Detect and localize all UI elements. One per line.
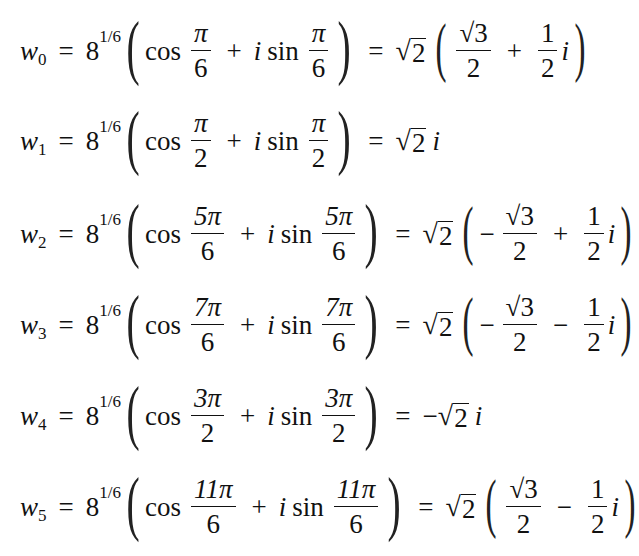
frac-den: 6 (312, 51, 326, 82)
equation-w2: w2 = 81/6 ( cos 5π6 + i sin 5π6 ) = √2 (… (20, 194, 637, 274)
angle-fraction: 3π2 (191, 385, 224, 447)
angle-fraction: π2 (309, 110, 329, 172)
one-over-2: 12 (588, 476, 608, 538)
angle-fraction: 3π2 (322, 385, 355, 447)
cos-fn: cos (145, 401, 181, 432)
subscript: 2 (38, 233, 47, 253)
equals-sign: = (368, 36, 383, 67)
exponent: 1/6 (99, 210, 121, 230)
exponent: 1/6 (99, 301, 121, 321)
base: 8 (86, 126, 100, 157)
right-paren: ) (338, 101, 351, 173)
variable-w: w (20, 401, 38, 432)
angle-fraction: π6 (191, 20, 211, 82)
right-paren: ) (338, 11, 351, 83)
imag-unit: i (608, 310, 616, 341)
exponent: 1/6 (99, 392, 121, 412)
sin-fn: sin (281, 401, 313, 432)
equation-w3: w3 = 81/6 ( cos 7π6 + i sin 7π6 ) = √2 (… (20, 285, 637, 365)
imag-unit: i (254, 126, 262, 157)
sin-fn: sin (267, 126, 299, 157)
variable-w: w (20, 219, 38, 250)
equals-sign: = (59, 126, 74, 157)
left-paren: ( (126, 101, 139, 173)
variable-w: w (20, 36, 38, 67)
sqrt-2: √2 (396, 125, 427, 157)
exponent: 1/6 (99, 483, 121, 503)
left-paren: ( (126, 11, 139, 83)
right-paren: ) (365, 285, 378, 357)
left-paren: ( (436, 14, 447, 80)
equals-sign: = (395, 310, 410, 341)
equation-w5: w5 = 81/6 ( cos 11π6 + i sin 11π6 ) = √2… (20, 467, 639, 547)
equals-sign: = (59, 36, 74, 67)
imag-unit: i (279, 492, 287, 523)
right-paren: ) (621, 197, 632, 263)
left-paren: ( (463, 288, 474, 354)
imag-unit: i (432, 126, 440, 157)
operator: + (507, 36, 522, 67)
sqrt3-over-2: √32 (503, 203, 537, 265)
equation-w4: w4 = 81/6 ( cos 3π2 + i sin 3π2 ) = − √2… (20, 376, 482, 456)
subscript: 5 (38, 506, 47, 526)
imag-unit: i (475, 401, 483, 432)
right-paren: ) (388, 467, 401, 539)
cos-fn: cos (145, 126, 181, 157)
cos-fn: cos (145, 219, 181, 250)
sqrt-2: √2 (423, 309, 454, 341)
subscript: 0 (38, 50, 47, 70)
subscript: 1 (38, 140, 47, 160)
base: 8 (86, 492, 100, 523)
sqrt3-over-2: √32 (506, 476, 540, 538)
right-paren: ) (624, 470, 635, 536)
imag-unit: i (561, 36, 569, 67)
left-paren: ( (486, 470, 497, 536)
plus-sign: + (227, 36, 242, 67)
subscript: 3 (38, 324, 47, 344)
subscript: 4 (38, 415, 47, 435)
exponent: 1/6 (99, 117, 121, 137)
angle-fraction: 7π6 (322, 294, 355, 356)
sin-fn: sin (281, 219, 313, 250)
imag-unit: i (267, 310, 275, 341)
variable-w: w (20, 126, 38, 157)
equals-sign: = (59, 310, 74, 341)
equals-sign: = (59, 219, 74, 250)
frac-num: π (191, 20, 211, 51)
sin-fn: sin (281, 310, 313, 341)
left-paren: ( (126, 285, 139, 357)
imag-unit: i (267, 401, 275, 432)
base: 8 (86, 401, 100, 432)
cos-fn: cos (145, 36, 181, 67)
angle-fraction: π2 (191, 110, 211, 172)
minus-sign: − (423, 401, 438, 432)
sin-fn: sin (267, 36, 299, 67)
operator: + (553, 219, 568, 250)
imag-unit: i (254, 36, 262, 67)
one-over-2: 12 (584, 294, 604, 356)
plus-sign: + (240, 401, 255, 432)
base: 8 (86, 310, 100, 341)
imag-unit: i (611, 492, 619, 523)
left-paren: ( (126, 376, 139, 448)
one-over-2: 12 (538, 20, 558, 82)
sqrt-2: √2 (446, 491, 477, 523)
equation-w0: w0 = 81/6 ( cos π6 + i sin π6 ) = √2 ( √… (20, 11, 591, 91)
sqrt-2: √2 (423, 218, 454, 250)
variable-w: w (20, 310, 38, 341)
plus-sign: + (227, 126, 242, 157)
imag-unit: i (267, 219, 275, 250)
base: 8 (86, 219, 100, 250)
left-paren: ( (126, 467, 139, 539)
angle-fraction: 5π6 (322, 203, 355, 265)
right-paren: ) (365, 376, 378, 448)
sin-fn: sin (292, 492, 324, 523)
one-over-2: 12 (584, 203, 604, 265)
plus-sign: + (252, 492, 267, 523)
sqrt3-over-2: √32 (456, 20, 490, 82)
cos-fn: cos (145, 492, 181, 523)
angle-fraction: 11π6 (334, 476, 379, 538)
equals-sign: = (418, 492, 433, 523)
angle-fraction: π6 (309, 20, 329, 82)
operator: − (557, 492, 572, 523)
